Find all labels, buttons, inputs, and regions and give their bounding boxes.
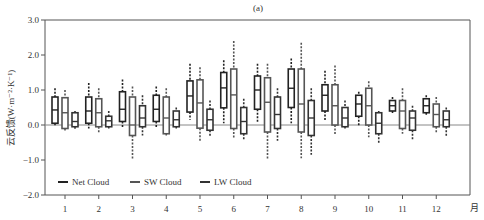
box-net-cloud <box>187 64 193 120</box>
box-sw-cloud <box>163 88 169 135</box>
box-iqr <box>342 108 348 127</box>
box-net-cloud <box>423 95 429 116</box>
legend-item: LW Cloud <box>200 177 252 187</box>
x-tick-label: 12 <box>432 204 441 214</box>
box-sw-cloud <box>231 41 237 139</box>
box-lw-cloud <box>342 101 348 129</box>
box-iqr <box>366 88 372 125</box>
box-iqr <box>265 78 271 132</box>
box-iqr <box>255 76 261 109</box>
box-sw-cloud <box>433 97 439 134</box>
x-tick-label: 9 <box>333 204 338 214</box>
y-tick-label: 3.0 <box>28 15 40 25</box>
box-iqr <box>86 97 92 123</box>
x-tick-label: 4 <box>164 204 169 214</box>
box-iqr <box>275 97 281 129</box>
box-net-cloud <box>86 83 92 129</box>
box-iqr <box>173 111 179 127</box>
y-tick-label: 1.0 <box>28 85 40 95</box>
box-net-cloud <box>322 71 328 122</box>
box-iqr <box>231 69 237 129</box>
box-lw-cloud <box>308 88 314 155</box>
legend-label: SW Cloud <box>144 177 182 187</box>
box-lw-cloud <box>376 111 382 144</box>
box-net-cloud <box>255 64 261 124</box>
box-iqr <box>140 106 146 127</box>
box-net-cloud <box>390 97 396 115</box>
x-tick-label: 6 <box>232 204 237 214</box>
y-tick-label: −2.0 <box>23 190 40 200</box>
y-tick-label: 0.0 <box>28 120 40 130</box>
box-sw-cloud <box>400 88 406 134</box>
legend-label: Net Cloud <box>72 177 110 187</box>
box-iqr <box>410 111 416 130</box>
x-tick-label: 1 <box>63 204 68 214</box>
box-net-cloud <box>120 80 126 129</box>
box-lw-cloud <box>241 99 247 141</box>
box-lw-cloud <box>275 88 281 141</box>
box-sw-cloud <box>298 43 304 159</box>
legend-label: LW Cloud <box>214 177 252 187</box>
box-lw-cloud <box>410 106 416 141</box>
x-tick-label: 10 <box>364 204 374 214</box>
box-sw-cloud <box>197 67 203 141</box>
box-net-cloud <box>221 60 227 123</box>
box-sw-cloud <box>332 66 338 136</box>
x-tick-label: 8 <box>299 204 304 214</box>
x-axis: 123456789101112 <box>45 195 470 214</box>
box-sw-cloud <box>265 64 271 160</box>
box-iqr <box>221 73 227 108</box>
x-tick-label: 5 <box>198 204 203 214</box>
box-iqr <box>197 80 203 128</box>
x-tick-label: 3 <box>130 204 135 214</box>
y-axis: 3.02.01.00.0−1.0−2.0 <box>23 15 45 200</box>
box-iqr <box>443 111 449 127</box>
box-sw-cloud <box>130 87 136 161</box>
box-lw-cloud <box>443 108 449 138</box>
box-iqr <box>400 101 406 129</box>
box-iqr <box>298 69 304 132</box>
legend-item: SW Cloud <box>130 177 182 187</box>
box-lw-cloud <box>207 101 213 138</box>
x-axis-label: 月 <box>470 203 479 213</box>
box-lw-cloud <box>72 111 78 130</box>
box-net-cloud <box>356 92 362 127</box>
chart-title: (a) <box>253 3 263 13</box>
box-iqr <box>163 97 169 134</box>
box-sw-cloud <box>62 90 68 132</box>
box-iqr <box>356 95 362 116</box>
legend-item: Net Cloud <box>58 177 110 187</box>
box-iqr <box>120 92 126 122</box>
box-sw-cloud <box>96 88 102 134</box>
plot-area <box>45 20 470 195</box>
y-tick-label: −1.0 <box>23 155 40 165</box>
x-tick-label: 11 <box>398 204 407 214</box>
box-sw-cloud <box>366 81 372 137</box>
y-axis-label: 云反馈(W·m⁻²·K⁻¹) <box>5 70 16 146</box>
x-tick-label: 7 <box>265 204 270 214</box>
box-iqr <box>322 85 328 111</box>
legend: Net CloudSW CloudLW Cloud <box>58 177 252 187</box>
x-tick-label: 2 <box>97 204 102 214</box>
box-iqr <box>241 108 247 134</box>
box-lw-cloud <box>173 108 179 129</box>
box-lw-cloud <box>140 95 146 135</box>
box-net-cloud <box>153 87 159 129</box>
box-iqr <box>72 113 78 127</box>
box-iqr <box>332 85 338 125</box>
box-net-cloud <box>288 59 294 124</box>
box-iqr <box>153 95 159 121</box>
box-net-cloud <box>52 88 58 127</box>
box-iqr <box>130 97 136 136</box>
y-tick-label: 2.0 <box>28 50 40 60</box>
box-plot-chart: (a) 3.02.01.00.0−1.0−2.0 123456789101112… <box>0 0 484 220</box>
box-lw-cloud <box>106 111 112 129</box>
box-iqr <box>433 104 439 127</box>
